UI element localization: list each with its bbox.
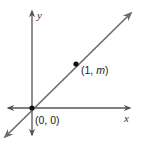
y-axis-label: y — [37, 10, 42, 21]
point-1-m-label: (1, m) — [81, 65, 108, 76]
point-label-prefix: (1, — [81, 64, 96, 76]
origin-label-text: (0, 0) — [35, 114, 60, 126]
point-origin — [29, 105, 34, 110]
origin-label: (0, 0) — [35, 115, 60, 126]
point-1-m — [73, 61, 78, 66]
graph-svg — [0, 0, 141, 143]
point-label-suffix: ) — [105, 64, 109, 76]
x-axis-label: x — [124, 113, 129, 124]
point-label-variable: m — [96, 64, 105, 76]
line-y-equals-mx — [5, 13, 131, 137]
coordinate-diagram: y x (0, 0) (1, m) — [0, 0, 141, 143]
